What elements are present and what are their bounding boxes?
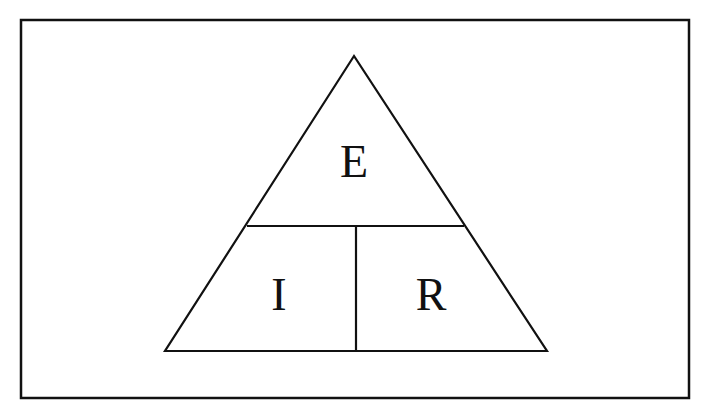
label-voltage-e: E — [340, 136, 368, 187]
label-resistance-r: R — [416, 269, 447, 320]
ohms-law-diagram: E I R — [0, 0, 709, 412]
label-current-i: I — [271, 269, 286, 320]
